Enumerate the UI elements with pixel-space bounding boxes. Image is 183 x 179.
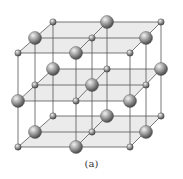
figure-caption: (a)	[0, 158, 183, 169]
small-atom	[15, 50, 21, 56]
small-atom	[127, 50, 133, 56]
large-atom	[47, 63, 60, 76]
small-atom	[127, 144, 133, 150]
small-atom	[50, 19, 56, 25]
large-atom	[70, 47, 83, 60]
small-atom	[50, 113, 56, 119]
small-atom	[89, 35, 95, 41]
large-atom	[29, 32, 42, 45]
small-atom	[73, 98, 79, 104]
small-atom	[32, 82, 38, 88]
small-atom	[158, 113, 164, 119]
large-atom	[101, 110, 114, 123]
small-atom	[104, 66, 110, 72]
large-atom	[155, 63, 168, 76]
large-atom	[29, 126, 42, 139]
small-atom	[158, 19, 164, 25]
small-atom	[89, 129, 95, 135]
large-atom	[101, 16, 114, 29]
large-atom	[86, 79, 99, 92]
large-atom	[140, 32, 153, 45]
small-atom	[143, 82, 149, 88]
small-atom	[15, 144, 21, 150]
large-atom	[124, 95, 137, 108]
large-atom	[12, 95, 25, 108]
nacl-lattice-diagram	[0, 0, 183, 160]
large-atom	[140, 126, 153, 139]
large-atom	[70, 141, 83, 154]
